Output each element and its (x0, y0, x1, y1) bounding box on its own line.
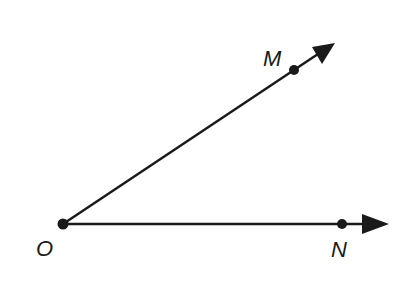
arrowhead-n-icon (362, 214, 389, 234)
ray-om-line (63, 54, 318, 224)
angle-diagram: M O N (0, 0, 409, 295)
label-n: N (331, 237, 347, 262)
label-m: M (263, 46, 282, 71)
point-n (337, 219, 347, 229)
point-o (58, 219, 69, 230)
label-o: O (36, 236, 53, 261)
point-m (289, 65, 299, 75)
arrowhead-m-icon (312, 43, 335, 64)
